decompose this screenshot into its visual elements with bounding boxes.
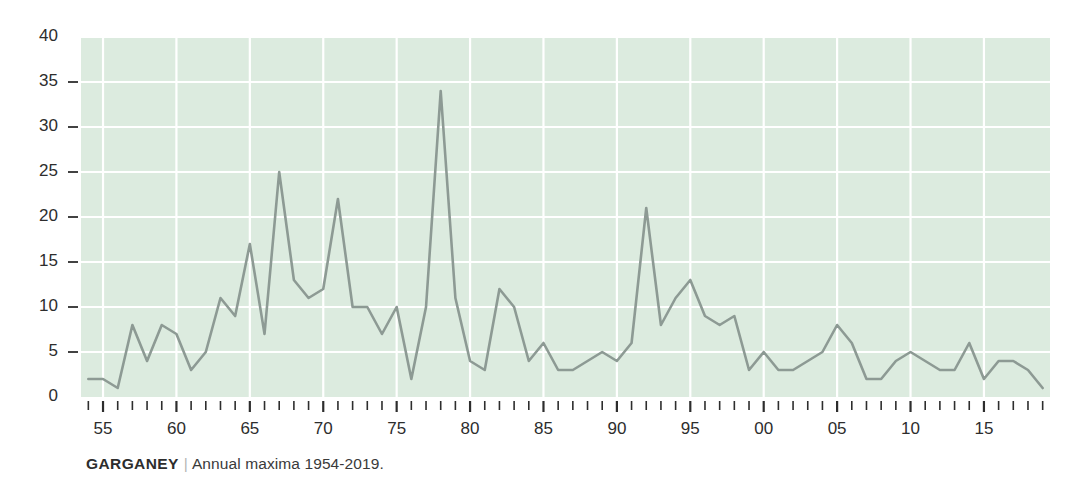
x-tick-label: 90 [607, 419, 626, 438]
y-tick-label: 25 [39, 161, 58, 180]
caption-species: GARGANEY [86, 455, 179, 472]
y-tick-label: 40 [39, 26, 58, 45]
x-tick-label: 85 [534, 419, 553, 438]
x-tick-label: 65 [240, 419, 259, 438]
caption-subtitle: Annual maxima 1954-2019. [192, 455, 384, 472]
x-tick-label: 60 [167, 419, 186, 438]
x-tick-label: 00 [754, 419, 773, 438]
chart-caption: GARGANEY|Annual maxima 1954-2019. [86, 455, 384, 473]
y-tick-label: 0 [49, 386, 58, 405]
x-tick-label: 80 [461, 419, 480, 438]
y-tick-label: 5 [49, 341, 58, 360]
line-chart: 0510152025303540 55606570758085909500051… [0, 0, 1089, 497]
y-tick-label: 30 [39, 116, 58, 135]
x-tick-label: 05 [828, 419, 847, 438]
y-tick-label: 10 [39, 296, 58, 315]
y-tick-label: 20 [39, 206, 58, 225]
caption-separator: | [179, 455, 192, 472]
x-tick-label: 70 [314, 419, 333, 438]
y-tick-label: 35 [39, 71, 58, 90]
x-tick-label: 75 [387, 419, 406, 438]
x-tick-label: 10 [901, 419, 920, 438]
x-tick-label: 55 [94, 419, 113, 438]
x-tick-label: 15 [974, 419, 993, 438]
x-tick-label: 95 [681, 419, 700, 438]
chart-figure: 0510152025303540 55606570758085909500051… [0, 0, 1089, 497]
y-tick-label: 15 [39, 251, 58, 270]
